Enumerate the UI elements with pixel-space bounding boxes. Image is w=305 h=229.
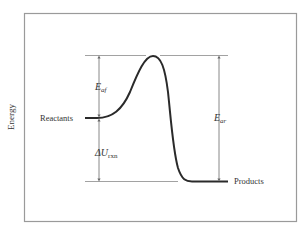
- energy-diagram: Energy Eaf ΔUrxn Ear Reactants Products: [0, 0, 305, 229]
- y-axis-label: Energy: [6, 104, 16, 130]
- reactants-label: Reactants: [40, 113, 73, 123]
- activation-forward-label: Eaf: [94, 81, 108, 94]
- reaction-energy-label: ΔUrxn: [94, 147, 118, 160]
- products-label: Products: [234, 176, 264, 186]
- activation-reverse-label: Ear: [213, 112, 227, 125]
- reaction-energy-curve: [85, 56, 228, 182]
